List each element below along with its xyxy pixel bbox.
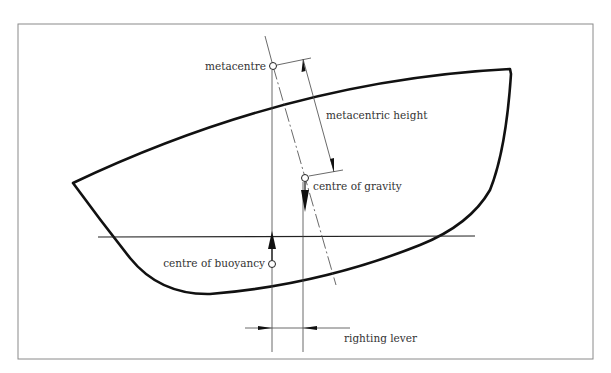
label-metacentre: metacentre (205, 60, 266, 72)
buoyancy-arrow-icon (268, 231, 276, 249)
label-metacentric-height: metacentric height (326, 109, 428, 121)
label-righting-lever: righting lever (344, 332, 418, 344)
label-centre-of-buoyancy: centre of buoyancy (163, 257, 265, 269)
centre-of-buoyancy-point (269, 261, 276, 268)
heeled-centreline (265, 36, 273, 66)
label-centre-of-gravity: centre of gravity (313, 180, 402, 192)
waterline (98, 236, 475, 237)
hull-outline (73, 69, 511, 294)
mh-arrow-bottom-icon (330, 158, 334, 172)
mh-extension-bottom (309, 170, 343, 176)
gravity-arrow-icon (301, 190, 309, 212)
ship-stability-diagram: metacentre metacentric height centre of … (0, 0, 611, 373)
righting-lever-arrow-right-icon (303, 326, 317, 330)
centre-of-gravity-point (302, 175, 309, 182)
metacentre-point (270, 63, 277, 70)
mh-extension-top (277, 58, 311, 65)
righting-lever-arrow-left-icon (258, 326, 272, 330)
